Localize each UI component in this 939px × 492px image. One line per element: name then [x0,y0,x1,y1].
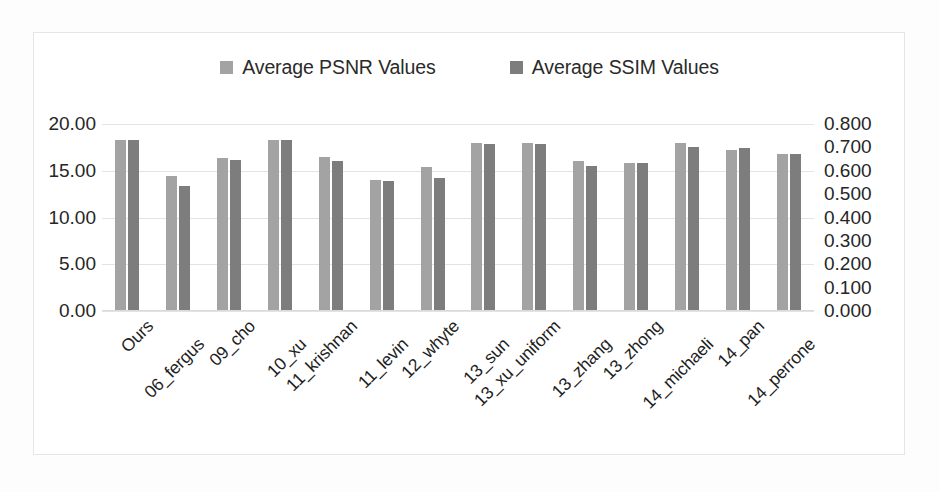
bar-ssim[interactable] [434,178,445,311]
bar-ssim[interactable] [637,163,648,311]
y-axis-right-tick: 0.600 [824,160,872,182]
bar-ssim[interactable] [586,166,597,311]
square-swatch-icon [220,61,233,74]
x-axis-category-label: 09_cho [205,316,260,371]
y-axis-right-tick: 0.100 [824,277,872,299]
bar-ssim[interactable] [128,140,139,311]
bar-ssim[interactable] [790,154,801,311]
y-axis-right-tick: 0.300 [824,230,872,252]
bar-psnr[interactable] [573,161,584,311]
bar-group [611,124,662,311]
bar-group [356,124,407,311]
bar-psnr[interactable] [115,140,126,311]
y-axis-right-tick: 0.200 [824,253,872,275]
bar-psnr[interactable] [217,158,228,311]
bar-psnr[interactable] [726,150,737,311]
legend-label-psnr: Average PSNR Values [242,56,436,79]
bar-psnr[interactable] [675,143,686,311]
bar-psnr[interactable] [471,143,482,311]
bar-ssim[interactable] [739,148,750,311]
y-axis-left-tick: 0.00 [59,300,96,322]
chart-legend: Average PSNR Values Average SSIM Values [0,52,939,82]
bar-group [153,124,204,311]
bar-group [560,124,611,311]
y-axis-left: 0.005.0010.0015.0020.00 [34,112,96,324]
y-axis-left-tick: 20.00 [48,113,96,135]
y-axis-right-tick: 0.000 [824,300,872,322]
gridline [102,311,814,312]
y-axis-left-tick: 15.00 [48,160,96,182]
bars-layer [102,124,814,311]
y-axis-left-tick: 10.00 [48,207,96,229]
bar-group [407,124,458,311]
bar-psnr[interactable] [319,157,330,311]
x-axis-category-label: Ours [117,316,158,357]
y-axis-right-tick: 0.800 [824,113,872,135]
bar-group [102,124,153,311]
bar-ssim[interactable] [484,144,495,311]
bar-group [712,124,763,311]
x-axis-categories: Ours06_fergus09_cho10_xu11_krishnan11_le… [102,314,814,444]
x-axis-category-label: 06_fergus [141,334,210,403]
bar-psnr[interactable] [370,180,381,311]
bar-chart: Average PSNR Values Average SSIM Values … [0,0,939,492]
bar-ssim[interactable] [230,160,241,311]
bar-ssim[interactable] [688,147,699,311]
legend-entry-ssim[interactable]: Average SSIM Values [510,56,719,79]
bar-group [458,124,509,311]
bar-psnr[interactable] [522,143,533,311]
bar-group [509,124,560,311]
x-axis-category-label: 14_pan [713,316,768,371]
bar-ssim[interactable] [383,181,394,311]
axis-baseline [102,310,814,311]
bar-group [763,124,814,311]
bar-group [305,124,356,311]
bar-psnr[interactable] [624,163,635,311]
bar-psnr[interactable] [777,154,788,311]
bar-group [661,124,712,311]
y-axis-left-tick: 5.00 [59,253,96,275]
bar-psnr[interactable] [268,140,279,311]
bar-group [204,124,255,311]
bar-ssim[interactable] [535,144,546,311]
y-axis-right-tick: 0.400 [824,207,872,229]
legend-entry-psnr[interactable]: Average PSNR Values [220,56,436,79]
square-swatch-icon [510,61,523,74]
plot-area [102,124,814,311]
bar-group [255,124,306,311]
bar-ssim[interactable] [179,186,190,311]
y-axis-right-tick: 0.500 [824,183,872,205]
legend-label-ssim: Average SSIM Values [532,56,719,79]
bar-ssim[interactable] [332,161,343,311]
bar-psnr[interactable] [421,167,432,311]
y-axis-right-tick: 0.700 [824,136,872,158]
bar-ssim[interactable] [281,140,292,311]
bar-psnr[interactable] [166,176,177,311]
y-axis-right: 0.0000.1000.2000.3000.4000.5000.6000.700… [824,112,914,324]
